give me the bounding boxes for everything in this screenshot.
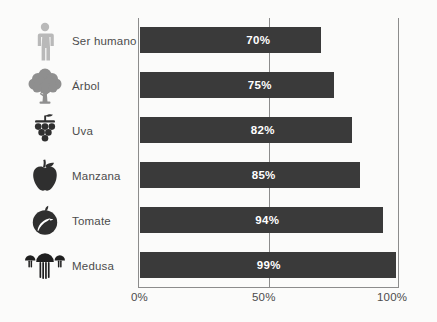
category-label: Manzana [72,153,121,198]
bar-value-label: 94% [255,214,279,226]
bar-uva: 82% [140,117,352,143]
bar-chart: Ser humano Árbo [0,0,437,322]
bar-tomate: 94% [140,207,383,233]
category-label: Árbol [72,63,100,108]
human-figure-icon [22,18,68,63]
category-label: Ser humano [72,18,137,63]
x-tick-0: 0% [131,291,148,303]
jellyfish-icon [22,243,68,288]
x-axis: 0% 50% 100% [0,291,437,315]
bar-medusa: 99% [140,252,396,278]
bar-ser-humano: 70% [140,27,321,53]
tomato-icon [22,198,68,243]
x-tick-100: 100% [377,291,407,303]
bar-value-label: 85% [252,169,276,181]
bar-value-label: 70% [246,34,270,46]
category-label: Tomate [72,198,111,243]
category-label: Medusa [72,243,114,288]
bar-value-label: 82% [251,124,275,136]
category-label: Uva [72,108,93,153]
bar-value-label: 75% [248,79,272,91]
tree-icon [22,63,68,108]
grapes-icon [22,108,68,153]
apple-icon [22,153,68,198]
bars-layer: 70% 75% 82% 85% 94% 99% [138,18,399,288]
bar-manzana: 85% [140,162,360,188]
x-tick-50: 50% [252,291,276,303]
bar-arbol: 75% [140,72,334,98]
bar-value-label: 99% [257,259,281,271]
